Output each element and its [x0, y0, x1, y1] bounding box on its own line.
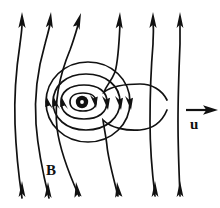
magnetic-field-label: B	[46, 163, 56, 178]
velocity-vector	[186, 105, 218, 115]
field-line-5	[150, 24, 155, 196]
separatrix-lines	[103, 24, 167, 196]
separatrix-upper	[104, 24, 167, 100]
field-line-6	[178, 24, 180, 196]
arrowheads-bottom	[19, 181, 184, 198]
arrowheads-top	[18, 12, 183, 30]
arrowhead-bottom-4	[115, 182, 122, 198]
field-line-figure: B u	[0, 0, 220, 208]
field-line-canvas	[0, 0, 220, 208]
velocity-label: u	[190, 117, 198, 132]
separatrix-lower	[103, 110, 167, 196]
current-out-of-page-icon	[76, 96, 88, 108]
open-field-lines-right	[150, 24, 180, 196]
field-line-1	[15, 24, 22, 198]
